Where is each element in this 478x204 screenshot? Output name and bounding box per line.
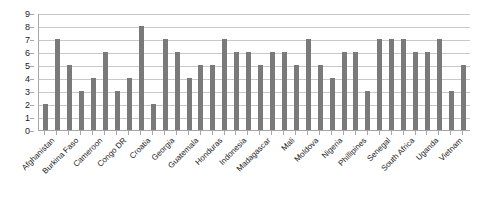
bar (222, 39, 227, 130)
bar-slot (290, 14, 302, 130)
bar-slot (314, 14, 326, 130)
bar-slot (255, 14, 267, 130)
x-tick-mark (450, 131, 451, 135)
bar-slot (350, 14, 362, 130)
bar (258, 65, 263, 130)
x-tick-mark (343, 131, 344, 135)
x-tick-mark (176, 131, 177, 135)
x-tick-mark (212, 131, 213, 135)
y-tick-mark (30, 27, 34, 28)
x-tick-slot (314, 131, 326, 135)
bar (306, 39, 311, 130)
x-tick-slot (457, 131, 469, 135)
x-tick-mark (104, 131, 105, 135)
x-tick-mark (247, 131, 248, 135)
x-tick-mark (438, 131, 439, 135)
x-tick-mark (164, 131, 165, 135)
x-tick-mark (188, 131, 189, 135)
y-tick-mark (30, 131, 34, 132)
bar (175, 52, 180, 130)
bar (318, 65, 323, 130)
y-tick-mark (30, 105, 34, 106)
bar-slot (159, 14, 171, 130)
bar-slot (278, 14, 290, 130)
bar-slot (243, 14, 255, 130)
x-tick-slot (111, 131, 123, 135)
x-tick-slot (302, 131, 314, 135)
bar (270, 52, 275, 130)
x-tick-slot (218, 131, 230, 135)
bar (79, 91, 84, 130)
bar-slot (302, 14, 314, 130)
x-tick-mark (56, 131, 57, 135)
x-tick-slot (409, 131, 421, 135)
x-tick-slot (146, 131, 158, 135)
y-tick-mark (30, 40, 34, 41)
bar (151, 104, 156, 130)
plot-area (38, 14, 470, 131)
bar (425, 52, 430, 130)
bar-slot (147, 14, 159, 130)
bar-slot (362, 14, 374, 130)
bar (91, 78, 96, 130)
x-tick-mark (283, 131, 284, 135)
bar-slot (422, 14, 434, 130)
x-tick-slot (99, 131, 111, 135)
bar-slot (183, 14, 195, 130)
x-tick-slot (135, 131, 147, 135)
bar (139, 26, 144, 130)
bar (377, 39, 382, 130)
y-tick-mark (30, 118, 34, 119)
bar-slot (231, 14, 243, 130)
bar-series (39, 14, 470, 130)
x-tick-mark (259, 131, 260, 135)
x-tick-slot (326, 131, 338, 135)
y-tick-mark (30, 53, 34, 54)
x-tick-label: Moldova (293, 136, 321, 164)
bar-slot (326, 14, 338, 130)
x-tick-mark (68, 131, 69, 135)
x-tick-mark (415, 131, 416, 135)
x-tick-mark (140, 131, 141, 135)
bar-slot (112, 14, 124, 130)
x-tick-slot (397, 131, 409, 135)
bar (437, 39, 442, 130)
x-axis-labels: AfghanistanBurkina FasoCameroonCongo DRC… (38, 136, 470, 204)
x-tick-slot (433, 131, 445, 135)
x-tick-slot (385, 131, 397, 135)
bar (67, 65, 72, 130)
bar-slot (410, 14, 422, 130)
bar (294, 65, 299, 130)
bar-slot (76, 14, 88, 130)
bar (246, 52, 251, 130)
bar-slot (64, 14, 76, 130)
bar-slot (219, 14, 231, 130)
bar-slot (135, 14, 147, 130)
bar (282, 52, 287, 130)
y-tick-mark (30, 79, 34, 80)
bar-slot (123, 14, 135, 130)
bar (234, 52, 239, 130)
bar-slot (338, 14, 350, 130)
x-tick-mark (391, 131, 392, 135)
x-tick-slot (182, 131, 194, 135)
x-tick-slot (123, 131, 135, 135)
bar-slot (171, 14, 183, 130)
y-axis: 0123456789 (0, 14, 34, 131)
bar-chart: 0123456789 AfghanistanBurkina FasoCamero… (0, 0, 478, 204)
x-tick-mark (80, 131, 81, 135)
x-tick-label: Croatia (128, 136, 153, 161)
x-tick-slot (290, 131, 302, 135)
x-tick-slot (278, 131, 290, 135)
x-tick-mark (319, 131, 320, 135)
bar-slot (195, 14, 207, 130)
bar-slot (267, 14, 279, 130)
bar (187, 78, 192, 130)
x-tick-slot (158, 131, 170, 135)
x-tick-slot (170, 131, 182, 135)
x-tick-label: Uganda (414, 136, 440, 162)
bar (330, 78, 335, 130)
x-tick-slot (39, 131, 51, 135)
x-tick-slot (194, 131, 206, 135)
x-tick-mark (224, 131, 225, 135)
